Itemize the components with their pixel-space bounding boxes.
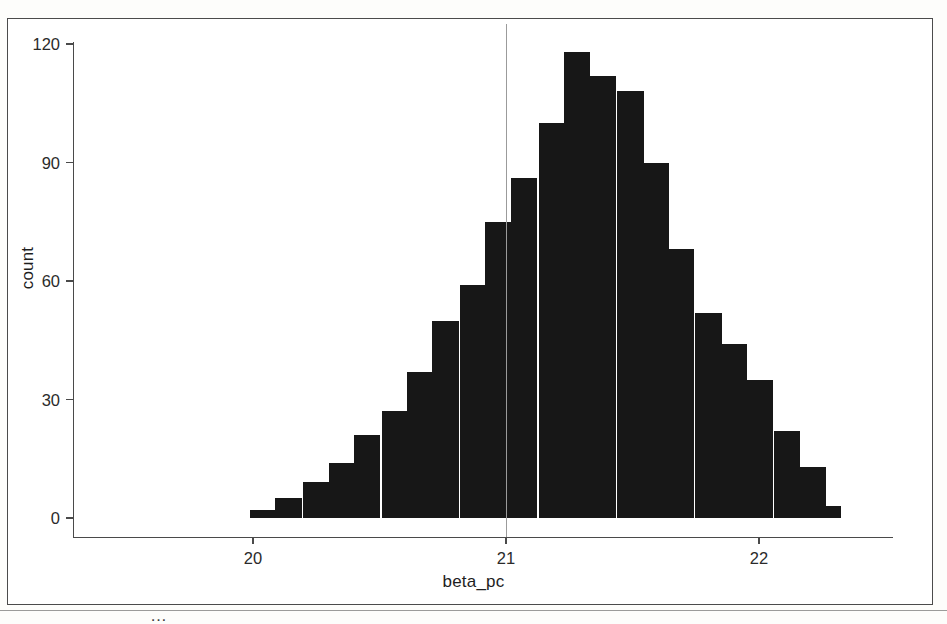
caption-fragment: … [150, 612, 947, 624]
y-tick-mark [66, 517, 73, 518]
x-tick-mark [758, 537, 759, 544]
histogram-bar [303, 482, 330, 518]
histogram-bar [814, 506, 841, 518]
histogram-bar [721, 344, 748, 518]
histogram-bar [382, 411, 409, 518]
histogram-plot: 0306090120 202122 count beta_pc [0, 0, 947, 624]
histogram-bar [642, 163, 669, 519]
histogram-bar [511, 178, 538, 518]
histogram-bar [354, 435, 381, 518]
reference-vline-icon [506, 24, 507, 543]
y-tick-label: 120 [0, 36, 60, 53]
x-tick-mark [252, 537, 253, 544]
y-tick-mark [66, 280, 73, 281]
histogram-bar [275, 498, 302, 518]
histogram-bar [407, 372, 434, 518]
histogram-bar [485, 222, 512, 518]
histogram-bar [695, 313, 722, 518]
caption-text: … [0, 612, 947, 624]
y-axis-title: count [18, 218, 38, 318]
histogram-bar [589, 76, 616, 518]
histogram-bar [668, 249, 695, 518]
y-tick-label: 90 [0, 155, 60, 172]
caption-rule [0, 610, 947, 611]
histogram-bar [564, 52, 591, 518]
y-tick-label: 0 [0, 510, 60, 527]
histogram-bar [432, 321, 459, 519]
scanned-page: 0306090120 202122 count beta_pc … [0, 0, 947, 624]
histogram-bar [774, 431, 801, 518]
histogram-bar [460, 285, 487, 518]
histogram-bar [746, 380, 773, 518]
x-tick-mark [505, 537, 506, 544]
y-tick-mark [66, 162, 73, 163]
x-tick-label: 21 [476, 549, 536, 567]
y-tick-mark [66, 43, 73, 44]
y-tick-mark [66, 399, 73, 400]
histogram-bar [539, 123, 566, 518]
x-tick-label: 22 [729, 549, 789, 567]
x-tick-label: 20 [223, 549, 283, 567]
x-axis-title: beta_pc [0, 572, 947, 592]
histogram-bar [250, 510, 277, 518]
histogram-bar [617, 91, 644, 518]
y-tick-label: 30 [0, 392, 60, 409]
histogram-bars [0, 0, 947, 624]
histogram-bar [329, 463, 356, 518]
